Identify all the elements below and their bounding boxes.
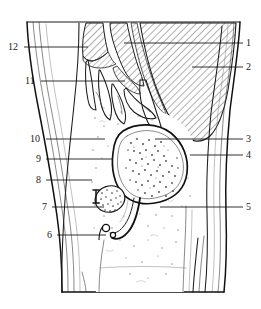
- anatomical-diagram: 12 11 10 9 8 7 6 1: [0, 0, 261, 309]
- nodule-upper: [102, 224, 109, 231]
- lower-base-fold: [82, 272, 86, 292]
- label-4: 4: [246, 149, 251, 160]
- label-7: 7: [42, 201, 47, 212]
- label-12: 12: [8, 41, 18, 52]
- label-8: 8: [36, 174, 41, 185]
- label-6: 6: [47, 229, 52, 240]
- label-11: 11: [25, 75, 35, 86]
- left-fascia-line: [46, 24, 80, 292]
- label-1: 1: [246, 37, 251, 48]
- nodule-lower: [110, 232, 115, 237]
- left-wall-inner: [62, 23, 79, 292]
- lower-right-strut-1: [193, 238, 198, 292]
- label-3: 3: [246, 133, 251, 144]
- label-10: 10: [30, 133, 40, 144]
- diagram-canvas: 12 11 10 9 8 7 6 1: [0, 0, 261, 309]
- label-9: 9: [36, 153, 41, 164]
- label-5: 5: [246, 201, 251, 212]
- left-skin-contour: [27, 22, 62, 292]
- lower-right-strut-2: [199, 236, 204, 292]
- label-2: 2: [246, 61, 251, 72]
